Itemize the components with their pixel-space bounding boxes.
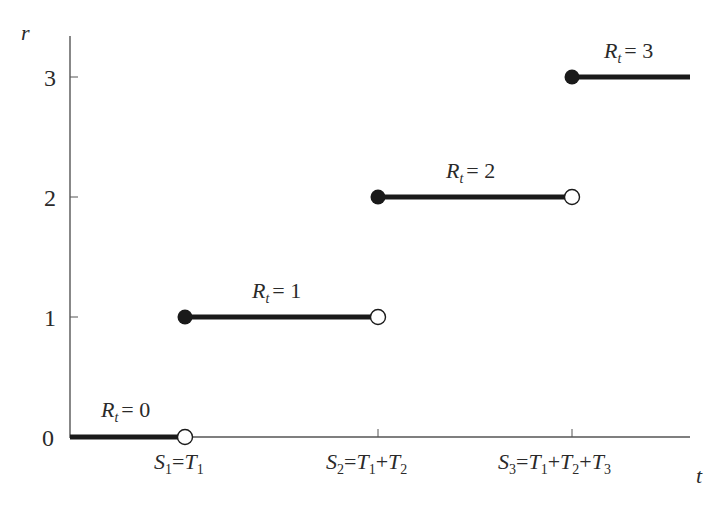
segment-label-r3: Rt= 3 bbox=[603, 38, 653, 66]
open-dot-r2 bbox=[565, 190, 580, 205]
closed-dot-r1 bbox=[178, 310, 193, 325]
segment-label-r1: Rt= 1 bbox=[251, 278, 301, 306]
segment-label-r0: Rt= 0 bbox=[100, 397, 150, 425]
y-tick-label-3: 3 bbox=[44, 65, 56, 91]
segment-label-r2: Rt= 2 bbox=[445, 158, 495, 186]
y-tick-label-1: 1 bbox=[44, 305, 56, 331]
y-axis-label: r bbox=[21, 20, 30, 45]
open-dot-r1 bbox=[371, 310, 386, 325]
step-chart: 0 1 2 3 r t Rt= 0 Rt= 1 Rt= 2 Rt= 3 S1=T… bbox=[0, 0, 726, 511]
x-tick-label-s3: S3=T1+T2+T3 bbox=[498, 449, 611, 477]
closed-dot-r2 bbox=[371, 190, 386, 205]
open-dot-r0 bbox=[178, 430, 193, 445]
x-tick-label-s2: S2=T1+T2 bbox=[326, 449, 407, 477]
x-axis-label: t bbox=[696, 463, 703, 488]
closed-dot-r3 bbox=[565, 70, 580, 85]
x-tick-label-s1: S1=T1 bbox=[154, 449, 204, 477]
y-tick-label-2: 2 bbox=[44, 185, 56, 211]
y-tick-label-0: 0 bbox=[42, 425, 54, 451]
